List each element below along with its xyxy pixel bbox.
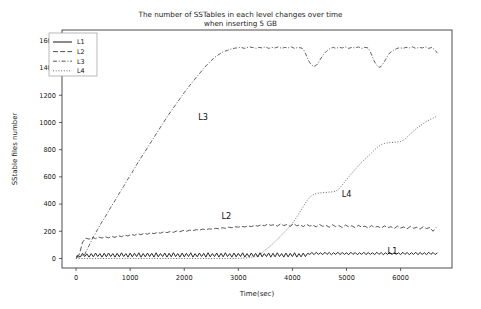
annotation-l4: L4	[342, 189, 352, 199]
y-tick-label: 800	[43, 146, 56, 154]
x-tick-label: 6000	[392, 274, 409, 282]
y-axis-label: SStable files number	[11, 113, 19, 186]
annotation-l1: L1	[388, 246, 398, 256]
legend[interactable]: L1L2L3L4	[49, 33, 97, 76]
chart-figure: The number of SSTables in each level cha…	[0, 0, 481, 309]
legend-label-l4[interactable]: L4	[77, 67, 85, 75]
legend-label-l3[interactable]: L3	[77, 58, 85, 66]
annotation-l3: L3	[198, 112, 208, 122]
y-tick-label: 1200	[39, 92, 56, 100]
y-tick-label: 400	[43, 200, 56, 208]
x-tick-label: 3000	[230, 274, 247, 282]
legend-box	[49, 33, 97, 76]
legend-label-l1[interactable]: L1	[77, 38, 85, 46]
x-tick-label: 4000	[284, 274, 301, 282]
x-tick-label: 5000	[338, 274, 355, 282]
chart-title-line1: The number of SSTables in each level cha…	[138, 10, 343, 19]
x-tick-label: 0	[74, 274, 78, 282]
chart-title-line2: when inserting 5 GB	[204, 19, 277, 28]
legend-label-l2[interactable]: L2	[77, 48, 85, 56]
chart-svg: The number of SSTables in each level cha…	[0, 0, 481, 309]
x-tick-label: 2000	[176, 274, 193, 282]
y-tick-label: 200	[43, 228, 56, 236]
y-tick-label: 0	[52, 255, 56, 263]
x-axis-label: Time(sec)	[239, 290, 275, 298]
y-tick-label: 600	[43, 173, 56, 181]
y-tick-label: 1000	[39, 119, 56, 127]
annotation-l2: L2	[222, 211, 232, 221]
x-tick-label: 1000	[122, 274, 139, 282]
